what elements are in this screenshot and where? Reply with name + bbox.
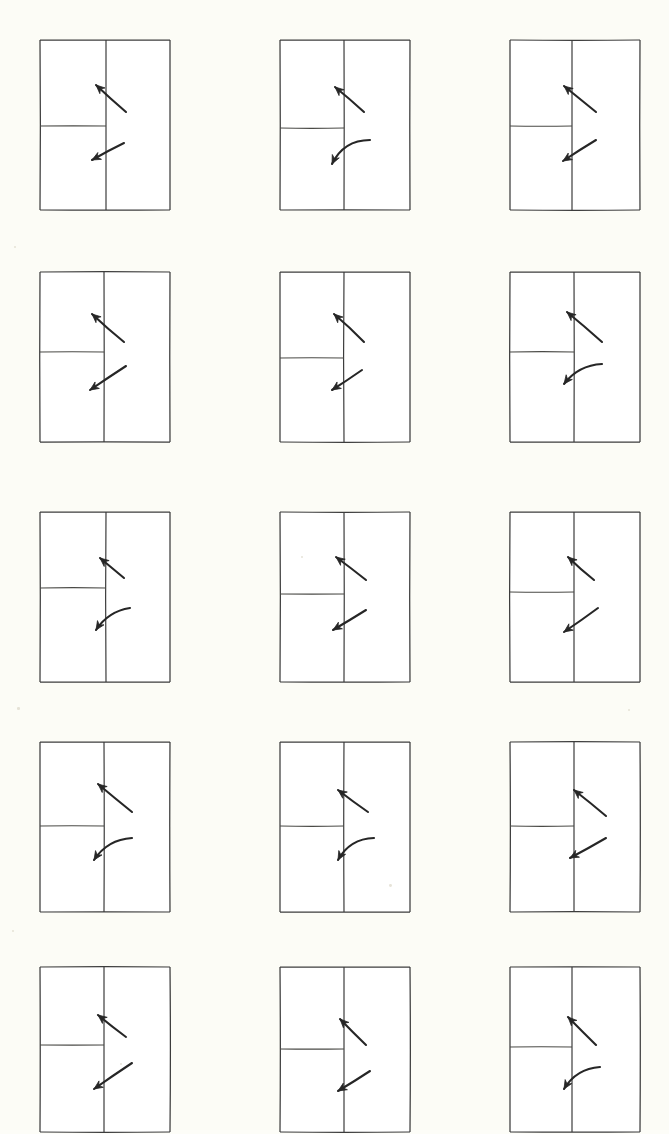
figure-r1c3 bbox=[508, 38, 642, 212]
figure-r4c2 bbox=[278, 740, 412, 914]
paper-speck bbox=[120, 1063, 122, 1065]
box-fill bbox=[40, 742, 170, 912]
paper-speck bbox=[628, 709, 630, 711]
figure-r5c1 bbox=[38, 965, 172, 1134]
figure-canvas bbox=[278, 740, 412, 914]
box-outline bbox=[280, 512, 410, 682]
box-fill bbox=[510, 272, 640, 442]
box-outline bbox=[280, 272, 410, 443]
box-outline bbox=[510, 967, 640, 1132]
figure-r4c1 bbox=[38, 740, 172, 914]
figure-canvas bbox=[508, 965, 642, 1134]
box-outline bbox=[40, 967, 170, 1133]
paper-speck bbox=[17, 707, 20, 710]
box-outline bbox=[510, 40, 640, 210]
figure-canvas bbox=[508, 510, 642, 684]
paper-speck bbox=[14, 246, 16, 248]
box-fill bbox=[510, 512, 640, 682]
paper-speck bbox=[12, 930, 14, 932]
figure-r2c1 bbox=[38, 270, 172, 444]
figure-canvas bbox=[278, 965, 412, 1134]
figure-r1c2 bbox=[278, 38, 412, 212]
box-outline bbox=[40, 512, 170, 682]
figure-canvas bbox=[38, 38, 172, 212]
box-fill bbox=[40, 40, 170, 210]
paper-speck bbox=[301, 556, 303, 558]
box-outline bbox=[40, 272, 170, 442]
figure-canvas bbox=[38, 510, 172, 684]
paper-speck bbox=[389, 884, 392, 887]
box-outline bbox=[40, 40, 170, 210]
box-fill bbox=[40, 967, 170, 1132]
figure-canvas bbox=[278, 510, 412, 684]
figure-r3c3 bbox=[508, 510, 642, 684]
figure-canvas bbox=[278, 270, 412, 444]
figure-r5c2 bbox=[278, 965, 412, 1134]
figure-r4c3 bbox=[508, 740, 642, 914]
box-fill bbox=[280, 272, 410, 442]
figure-r3c2 bbox=[278, 510, 412, 684]
figure-canvas bbox=[38, 740, 172, 914]
figure-r1c1 bbox=[38, 38, 172, 212]
box-fill bbox=[510, 967, 640, 1132]
figure-canvas bbox=[508, 740, 642, 914]
figure-canvas bbox=[38, 270, 172, 444]
box-fill bbox=[280, 40, 410, 210]
figure-canvas bbox=[38, 965, 172, 1134]
box-outline bbox=[510, 512, 640, 682]
figure-r2c2 bbox=[278, 270, 412, 444]
figure-canvas bbox=[278, 38, 412, 212]
box-fill bbox=[40, 272, 170, 442]
box-fill bbox=[510, 40, 640, 210]
figure-r2c3 bbox=[508, 270, 642, 444]
box-fill bbox=[510, 742, 640, 912]
figure-r3c1 bbox=[38, 510, 172, 684]
box-fill bbox=[40, 512, 170, 682]
box-outline bbox=[40, 742, 170, 912]
box-fill bbox=[280, 512, 410, 682]
figure-r5c3 bbox=[508, 965, 642, 1134]
figure-canvas bbox=[508, 270, 642, 444]
figure-canvas bbox=[508, 38, 642, 212]
box-outline bbox=[280, 40, 410, 210]
